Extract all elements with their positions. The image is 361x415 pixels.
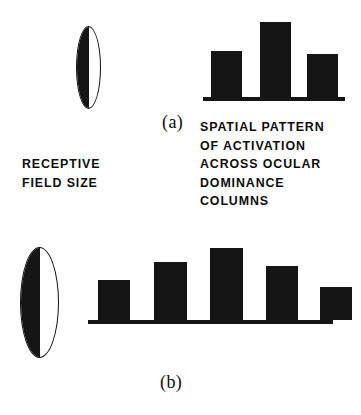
bar-a-1 [211,51,242,97]
bar-b-3 [210,248,243,320]
bar-baseline-b [88,320,333,324]
bar-chart-panel-b [88,248,333,324]
panel-label-a: (a) [162,112,183,133]
receptive-field-ellipse-b [20,247,59,358]
bar-b-2 [154,262,187,320]
ellipse-filled-half-b [21,248,40,357]
bar-b-1 [98,280,130,320]
bar-baseline-a [203,97,345,101]
ellipse-filled-half-a [77,27,89,108]
figure-canvas: (a) RECEPTIVE FIELD SIZE SPATIAL PATTERN… [0,0,361,415]
bar-b-5 [320,287,352,320]
bar-chart-panel-a [203,20,345,101]
bar-b-4 [266,266,298,320]
panel-label-b: (b) [160,372,182,393]
receptive-field-ellipse-a [76,26,101,109]
bar-a-3 [307,54,338,97]
bar-a-2 [260,22,291,97]
spatial-pattern-caption: SPATIAL PATTERN OF ACTIVATION ACROSS OCU… [200,118,325,211]
receptive-field-size-label: RECEPTIVE FIELD SIZE [22,155,100,192]
